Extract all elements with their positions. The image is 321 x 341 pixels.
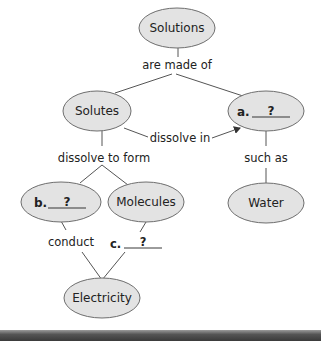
bottom-bar xyxy=(0,330,321,341)
node-molecules: Molecules xyxy=(108,182,184,222)
concept-map: Solutions Solutes a. ? b. ? Molecules Wa… xyxy=(0,0,321,341)
svg-text:Electricity: Electricity xyxy=(72,291,132,305)
link-conduct: conduct xyxy=(48,235,95,249)
link-dissolve-in: dissolve in xyxy=(150,131,211,145)
link-dissolve-to-form: dissolve to form xyxy=(58,151,150,165)
link-c-blank: c. ? xyxy=(110,235,162,251)
svg-text:Solutions: Solutions xyxy=(149,21,204,35)
svg-text:?: ? xyxy=(64,195,71,209)
link-are-made-of: are made of xyxy=(142,58,213,72)
link-such-as: such as xyxy=(244,151,288,165)
svg-text:Solutes: Solutes xyxy=(75,104,119,118)
svg-text:a.: a. xyxy=(237,105,250,119)
svg-text:b.: b. xyxy=(34,196,47,210)
svg-text:?: ? xyxy=(268,104,275,118)
svg-text:?: ? xyxy=(140,235,147,249)
svg-text:Water: Water xyxy=(248,196,284,210)
svg-text:c.: c. xyxy=(110,237,121,251)
node-electricity: Electricity xyxy=(64,278,140,318)
node-solutes: Solutes xyxy=(63,91,131,131)
node-b-blank: b. ? xyxy=(21,182,101,222)
node-a-blank: a. ? xyxy=(228,91,304,131)
node-solutions: Solutions xyxy=(139,8,215,48)
svg-text:Molecules: Molecules xyxy=(116,195,176,209)
node-water: Water xyxy=(228,183,304,223)
